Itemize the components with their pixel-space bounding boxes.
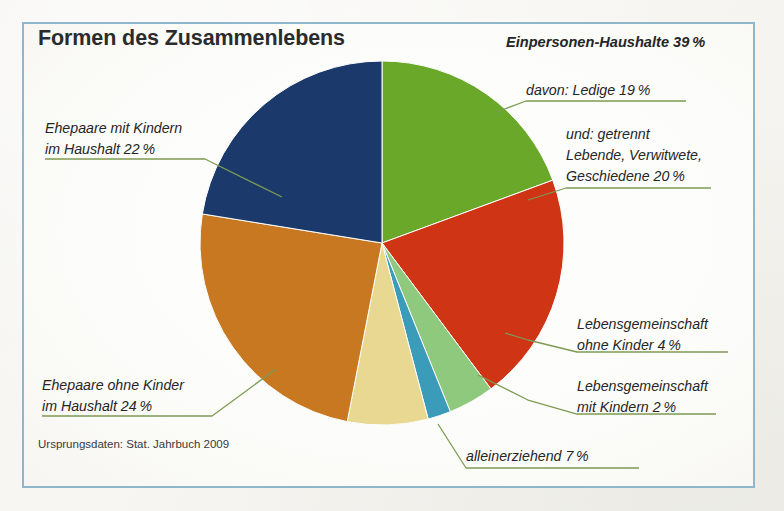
label-line-1: Lebensgemeinschaft	[577, 314, 708, 335]
label-line-1: und: getrennt	[566, 124, 702, 145]
label-line-1: Lebensgemeinschaft	[577, 376, 708, 397]
label-line-1: Ehepaare ohne Kinder	[42, 375, 184, 396]
pie-chart	[200, 61, 564, 425]
pie-slice[interactable]	[202, 61, 382, 243]
label-davon-ledige: davon: Ledige 19 %	[526, 80, 650, 101]
label-ehepaare-ohne-kinder: Ehepaare ohne Kinder im Haushalt 24 %	[42, 375, 184, 417]
label-line-1: Ehepaare mit Kindern	[45, 118, 182, 139]
label-line-2: mit Kindern 2 %	[577, 397, 708, 418]
label-line-2: im Haushalt 24 %	[42, 396, 184, 417]
label-lebensgemeinschaft-mit-kindern: Lebensgemeinschaft mit Kindern 2 %	[577, 376, 708, 418]
label-line-2: im Haushalt 22 %	[45, 139, 182, 160]
label-ehepaare-mit-kindern: Ehepaare mit Kindern im Haushalt 22 %	[45, 118, 182, 160]
chart-canvas	[0, 0, 784, 511]
source-note: Ursprungsdaten: Stat. Jahrbuch 2009	[38, 438, 229, 450]
label-line-3: Geschiedene 20 %	[566, 166, 702, 187]
label-lebensgemeinschaft-ohne-kinder: Lebensgemeinschaft ohne Kinder 4 %	[577, 314, 708, 356]
label-getrennt-lebende: und: getrennt Lebende, Verwitwete, Gesch…	[566, 124, 702, 187]
page-title: Formen des Zusammenlebens	[38, 26, 345, 51]
label-line-2: Lebende, Verwitwete,	[566, 145, 702, 166]
poster-root: Formen des Zusammenlebens Ehepaare mit K…	[0, 0, 784, 511]
label-alleinerziehend: alleinerziehend 7 %	[466, 446, 589, 467]
leader-line	[494, 101, 686, 113]
label-line-2: ohne Kinder 4 %	[577, 335, 708, 356]
label-einpersonen-haushalte: Einpersonen-Haushalte 39 %	[506, 32, 705, 53]
